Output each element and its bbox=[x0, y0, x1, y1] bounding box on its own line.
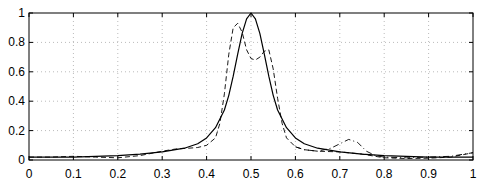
line-chart: 00.10.20.30.40.50.60.70.80.91 00.20.40.6… bbox=[0, 0, 483, 184]
x-tick-label: 0.9 bbox=[420, 167, 437, 181]
series-dashed bbox=[29, 23, 473, 158]
x-tick-label: 0.7 bbox=[331, 167, 348, 181]
x-tick-label: 0.4 bbox=[198, 167, 215, 181]
x-tick-label: 0.2 bbox=[109, 167, 126, 181]
y-axis-tick-labels: 00.20.40.60.81 bbox=[8, 6, 25, 167]
y-tick-label: 0.8 bbox=[8, 35, 25, 49]
x-tick-label: 0.5 bbox=[243, 167, 260, 181]
y-tick-label: 0.2 bbox=[8, 124, 25, 138]
x-tick-label: 0.8 bbox=[376, 167, 393, 181]
x-tick-label: 1 bbox=[470, 167, 477, 181]
grid-lines bbox=[29, 13, 473, 160]
x-tick-label: 0.6 bbox=[287, 167, 304, 181]
y-tick-label: 0.4 bbox=[8, 94, 25, 108]
x-tick-label: 0.1 bbox=[65, 167, 82, 181]
x-tick-label: 0 bbox=[26, 167, 33, 181]
y-tick-label: 0 bbox=[18, 153, 25, 167]
x-axis-tick-labels: 00.10.20.30.40.50.60.70.80.91 bbox=[26, 167, 477, 181]
x-tick-label: 0.3 bbox=[154, 167, 171, 181]
y-tick-label: 0.6 bbox=[8, 65, 25, 79]
y-tick-label: 1 bbox=[18, 6, 25, 20]
